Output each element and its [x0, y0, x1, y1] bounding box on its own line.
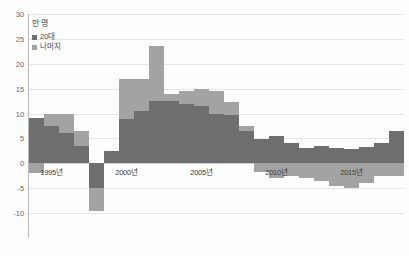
- bar-segment-20s: [104, 151, 119, 163]
- bar-segment-20s: [299, 148, 314, 163]
- bar-segment-rest: [179, 91, 194, 103]
- bar-segment-rest: [239, 126, 254, 131]
- legend-swatch-icon: [32, 45, 37, 50]
- plot-area: [28, 14, 404, 238]
- bar-segment-rest: [299, 163, 314, 178]
- bar-segment-20s: [89, 163, 104, 188]
- bar-column[interactable]: [134, 14, 149, 238]
- bar-segment-rest: [59, 114, 74, 134]
- bar-segment-20s: [164, 101, 179, 163]
- bar-column[interactable]: [314, 14, 329, 238]
- bar-segment-rest: [209, 91, 224, 113]
- legend-swatch-icon: [32, 35, 37, 40]
- bar-segment-20s: [119, 119, 134, 164]
- y-axis-tick-label: 0: [20, 159, 24, 168]
- legend-label-20s: 20대: [40, 32, 55, 43]
- bar-column[interactable]: [119, 14, 134, 238]
- bar-segment-rest: [29, 163, 44, 173]
- bar-segment-20s: [359, 147, 374, 163]
- bar-segment-rest: [314, 163, 329, 180]
- bar-column[interactable]: [359, 14, 374, 238]
- y-axis-tick-labels: 302520151050-5-10: [0, 14, 28, 238]
- bar-segment-rest: [134, 79, 149, 111]
- bar-column[interactable]: [269, 14, 284, 238]
- bar-segment-20s: [389, 131, 404, 163]
- bar-column[interactable]: [59, 14, 74, 238]
- bar-segment-20s: [134, 111, 149, 163]
- bar-column[interactable]: [239, 14, 254, 238]
- bar-segment-rest: [149, 46, 164, 101]
- bar-segment-rest: [74, 131, 89, 146]
- bar-segment-20s: [269, 136, 284, 163]
- bar-segment-rest: [359, 163, 374, 183]
- chart-legend: 만 명 20대 나머지: [32, 18, 61, 53]
- y-axis-tick-label: 20: [16, 59, 24, 68]
- bar-column[interactable]: [224, 14, 239, 238]
- bar-segment-20s: [284, 143, 299, 163]
- bar-column[interactable]: [149, 14, 164, 238]
- bar-segment-rest: [224, 102, 239, 114]
- bar-column[interactable]: [344, 14, 359, 238]
- y-axis-tick-label: 10: [16, 109, 24, 118]
- bar-segment-20s: [194, 106, 209, 163]
- legend-item-rest: 나머지: [32, 42, 61, 53]
- legend-label-rest: 나머지: [40, 42, 61, 53]
- legend-item-20s: 20대: [32, 32, 61, 43]
- unit-label: 만 명: [32, 18, 61, 30]
- bar-segment-rest: [374, 163, 389, 175]
- y-axis-tick-label: -10: [13, 209, 24, 218]
- y-axis-tick-label: 25: [16, 34, 24, 43]
- bar-segment-rest: [89, 188, 104, 210]
- y-axis-tick-label: 15: [16, 84, 24, 93]
- bar-column[interactable]: [389, 14, 404, 238]
- bar-segment-20s: [179, 104, 194, 164]
- bar-column[interactable]: [299, 14, 314, 238]
- bar-column[interactable]: [104, 14, 119, 238]
- bar-segment-20s: [29, 118, 44, 164]
- bar-segment-rest: [329, 163, 344, 185]
- bar-segment-rest: [194, 89, 209, 106]
- bar-segment-rest: [344, 163, 359, 188]
- bar-segment-rest: [284, 163, 299, 175]
- bar-segment-rest: [119, 79, 134, 119]
- bar-segment-20s: [44, 126, 59, 163]
- bars-layer: [29, 14, 404, 238]
- bar-column[interactable]: [284, 14, 299, 238]
- bar-segment-20s: [209, 114, 224, 164]
- bar-segment-20s: [374, 143, 389, 163]
- bar-segment-rest: [269, 163, 284, 178]
- bar-column[interactable]: [89, 14, 104, 238]
- bar-segment-20s: [239, 131, 254, 163]
- bar-segment-20s: [254, 139, 269, 163]
- bar-column[interactable]: [194, 14, 209, 238]
- bar-segment-rest: [164, 94, 179, 101]
- y-axis-tick-label: -5: [18, 184, 24, 193]
- bar-segment-20s: [344, 149, 359, 163]
- bar-segment-20s: [329, 148, 344, 163]
- bar-column[interactable]: [374, 14, 389, 238]
- bar-segment-rest: [254, 163, 269, 172]
- bar-column[interactable]: [209, 14, 224, 238]
- bar-segment-20s: [224, 115, 239, 164]
- bar-segment-20s: [314, 146, 329, 163]
- bar-segment-20s: [149, 101, 164, 163]
- y-axis-tick-label: 5: [20, 134, 24, 143]
- y-axis-tick-label: 30: [16, 10, 24, 19]
- bar-column[interactable]: [164, 14, 179, 238]
- bar-segment-rest: [389, 163, 404, 175]
- bar-segment-20s: [74, 146, 89, 163]
- chart-container: 302520151050-5-10 1995년2000년2005년2010년20…: [0, 0, 409, 256]
- bar-column[interactable]: [254, 14, 269, 238]
- bar-column[interactable]: [74, 14, 89, 238]
- bar-column[interactable]: [179, 14, 194, 238]
- bar-segment-20s: [59, 133, 74, 163]
- bar-segment-rest: [44, 114, 59, 126]
- bar-column[interactable]: [329, 14, 344, 238]
